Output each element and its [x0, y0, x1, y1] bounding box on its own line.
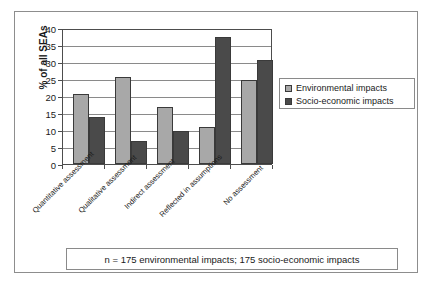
- x-tickmark-4: [230, 165, 231, 169]
- legend-label-socio-economic-impacts: Socio-economic impacts: [296, 96, 394, 106]
- y-tick-label-10: 10: [34, 127, 56, 136]
- bar-socio-indirect-assessment[interactable]: [173, 131, 189, 165]
- legend: Environmental impacts Socio-economic imp…: [279, 78, 415, 109]
- x-tickmark-2: [146, 165, 147, 169]
- legend-item-environmental-impacts[interactable]: Environmental impacts: [285, 82, 414, 94]
- y-tick-label-20: 20: [34, 93, 56, 102]
- legend-swatch-socio-economic-icon: [285, 98, 292, 105]
- x-tickmark-1: [104, 165, 105, 169]
- gridline-20: [63, 97, 271, 98]
- gridline-25: [63, 80, 271, 81]
- y-tick-label-25: 25: [34, 76, 56, 85]
- plot-area: [62, 29, 272, 165]
- legend-label-environmental-impacts: Environmental impacts: [296, 83, 387, 93]
- x-tickmark-3: [188, 165, 189, 169]
- x-tickmark-5: [272, 165, 273, 169]
- bar-env-no-assessment[interactable]: [241, 80, 257, 164]
- x-tickmark-0: [62, 165, 63, 169]
- y-tick-label-15: 15: [34, 110, 56, 119]
- gridline-35: [63, 46, 271, 47]
- y-tick-label-40: 40: [34, 25, 56, 34]
- y-tick-label-35: 35: [34, 42, 56, 51]
- bar-env-qualitative-assessment[interactable]: [115, 77, 131, 164]
- figure-root: % of all SEAs 40 35 30 25 20 15 10 5 0: [0, 0, 431, 286]
- y-tick-label-5: 5: [34, 144, 56, 153]
- legend-swatch-environmental-icon: [285, 85, 292, 92]
- gridline-30: [63, 63, 271, 64]
- footer-note-box: n = 175 environmental impacts; 175 socio…: [66, 248, 398, 270]
- legend-item-socio-economic-impacts[interactable]: Socio-economic impacts: [285, 95, 414, 107]
- bar-socio-reflected-in-assumptions[interactable]: [215, 37, 231, 164]
- footer-note-text: n = 175 environmental impacts; 175 socio…: [105, 254, 360, 265]
- y-tick-label-0: 0: [34, 161, 56, 170]
- bar-socio-no-assessment[interactable]: [257, 60, 273, 164]
- y-tick-label-30: 30: [34, 59, 56, 68]
